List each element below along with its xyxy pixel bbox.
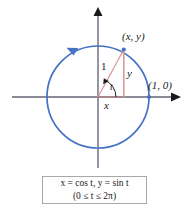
figure-unit-circle: (x, y) (1, 0) 1 y x t x = cos t, y = sin… <box>0 0 187 210</box>
equation-line-parametric: x = cos t, y = sin t <box>60 177 128 190</box>
point-marker-xy <box>122 47 126 51</box>
label-leg-horizontal-x: x <box>104 100 109 111</box>
y-axis-arrowhead-icon <box>94 7 103 16</box>
equation-caption-box: x = cos t, y = sin t (0 ≤ t ≤ 2π) <box>42 176 147 204</box>
equation-line-domain: (0 ≤ t ≤ 2π) <box>73 190 116 203</box>
label-leg-vertical-y: y <box>127 68 132 79</box>
x-axis-arrowhead-icon <box>171 93 181 102</box>
point-marker-1-0 <box>147 95 151 99</box>
label-point-xy: (x, y) <box>122 31 145 42</box>
label-angle-t: t <box>110 82 113 92</box>
label-point-1-0: (1, 0) <box>148 80 172 91</box>
label-radius-length: 1 <box>101 61 107 72</box>
